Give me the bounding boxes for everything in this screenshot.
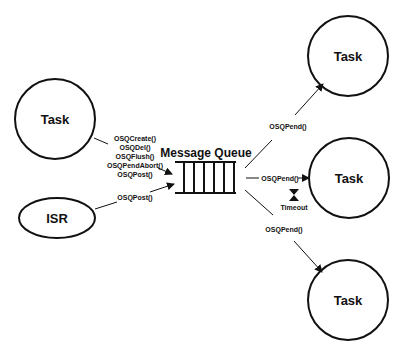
isr-call-arrow (150, 184, 174, 192)
task-top-right-label: Task (334, 49, 363, 64)
task-bottom-right-label: Task (334, 293, 363, 308)
message-queue: Message Queue (160, 146, 252, 193)
pend-mid-label: OSQPend() (261, 175, 298, 183)
queue-title: Message Queue (160, 146, 252, 160)
svg-text:OSQPost(): OSQPost() (117, 171, 152, 179)
task-bottom-right-node: Task (308, 260, 388, 340)
task-call-line (94, 138, 108, 144)
timeout-label: Timeout (280, 204, 308, 211)
pend-top-label: OSQPend() (269, 123, 306, 131)
svg-text:OSQPendAbort(): OSQPendAbort() (107, 162, 163, 170)
isr-call-label: OSQPost() (117, 194, 152, 202)
task-top-right-node: Task (308, 16, 388, 96)
svg-text:OSQFlush(): OSQFlush() (116, 153, 155, 161)
pend-bottom-label: OSQPend() (265, 226, 302, 234)
isr-call-line (95, 202, 117, 209)
task-left-node: Task (15, 79, 95, 159)
task-mid-right-node: Task (309, 138, 389, 218)
pend-top-arrow (295, 84, 323, 115)
message-queue-diagram: Task ISR OSQCreate() OSQDel() OSQFlush()… (0, 0, 407, 363)
isr-node: ISR (19, 198, 95, 238)
svg-text:OSQCreate(): OSQCreate() (114, 135, 156, 143)
svg-text:OSQDel(): OSQDel() (119, 144, 150, 152)
task-left-label: Task (41, 112, 70, 127)
hourglass-icon (289, 189, 299, 201)
pend-bottom-arrow (294, 241, 322, 272)
pend-bottom-line (245, 190, 273, 215)
task-calls-labels: OSQCreate() OSQDel() OSQFlush() OSQPendA… (107, 135, 163, 179)
isr-label: ISR (46, 211, 68, 226)
task-mid-right-label: Task (335, 171, 364, 186)
